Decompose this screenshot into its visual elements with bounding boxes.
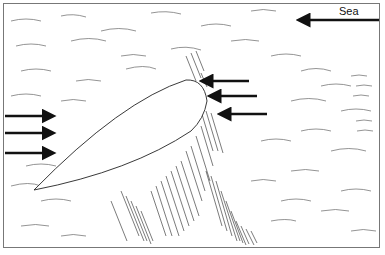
hull (34, 80, 207, 190)
bow-arrows (206, 81, 267, 114)
sea-label: Sea (339, 5, 359, 17)
diagram-frame: Sea (3, 3, 380, 248)
stern-arrows (5, 116, 49, 153)
sea-illustration (4, 4, 380, 248)
